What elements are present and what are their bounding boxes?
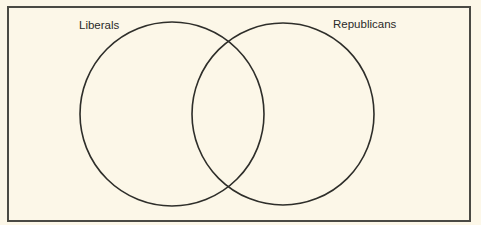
venn-diagram-canvas: Liberals Republicans [0,0,481,225]
venn-circles [0,0,481,225]
set-label-liberals: Liberals [79,20,119,32]
circle-republicans [192,23,374,205]
circle-liberals [80,22,264,206]
set-label-republicans: Republicans [333,19,396,31]
